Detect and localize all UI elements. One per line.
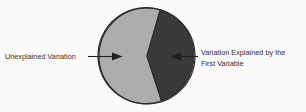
label-unexplained-variation: Unexplained Variation — [5, 52, 76, 61]
pie-chart-svg: Unexplained Variation Variation Explaine… — [0, 0, 306, 112]
pie-chart-figure: Unexplained Variation Variation Explaine… — [0, 0, 306, 112]
label-variation-explained-line1: Variation Explained by the — [201, 48, 285, 57]
label-variation-explained-line2: First Variable — [201, 59, 244, 68]
